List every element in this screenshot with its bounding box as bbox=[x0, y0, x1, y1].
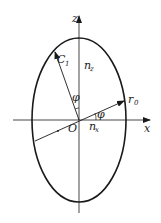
phi-upper-arc bbox=[75, 108, 79, 109]
x-axis-label: x bbox=[144, 122, 151, 135]
origin-label: O bbox=[68, 122, 77, 135]
c1-subscript: 1 bbox=[65, 60, 69, 68]
r0-subscript: 0 bbox=[134, 99, 139, 107]
r0-vector bbox=[35, 101, 124, 141]
phi-upper-label: φ bbox=[72, 91, 80, 104]
index-ellipsoid-diagram: z x O C 1 r 0 n z n x φ φ bbox=[0, 0, 161, 223]
z-axis-label: z bbox=[71, 12, 78, 25]
phi-lower-label: φ bbox=[97, 108, 105, 121]
nz-subscript: z bbox=[89, 65, 94, 73]
nx-subscript: x bbox=[95, 126, 99, 134]
r0-midpoint-mark bbox=[57, 130, 59, 132]
